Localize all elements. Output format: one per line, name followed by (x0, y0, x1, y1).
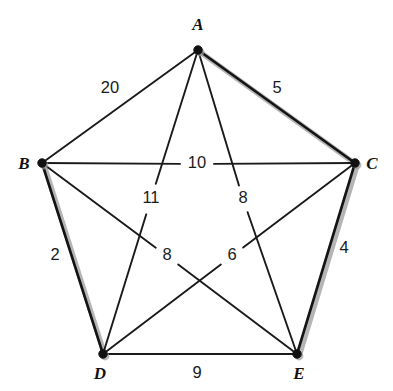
edge-a-c (198, 50, 355, 163)
edge-a-c-weight-label: 5 (272, 78, 281, 96)
edge-b-e-seg2 (178, 264, 297, 354)
edge-d-e-weight-label: 9 (192, 363, 201, 381)
vertex-d-dot (99, 350, 107, 358)
edge-a-b-weight-label: 20 (101, 78, 119, 96)
vertex-a-dot (194, 46, 202, 54)
edge-c-e-weight-label: 4 (339, 238, 348, 256)
vertex-b-dot (38, 159, 46, 167)
graph-figure: 2051024911886 ABCDE (0, 0, 393, 391)
edge-b-e-weight-label: 8 (162, 245, 171, 263)
pentagon-graph-svg: 2051024911886 ABCDE (0, 0, 393, 391)
vertex-label-layer: ABCDE (17, 15, 378, 383)
edge-line-layer (42, 50, 355, 354)
edge-b-c-seg1 (42, 163, 180, 164)
edge-a-e-weight-label: 8 (238, 188, 247, 206)
vertex-c-dot (351, 159, 359, 167)
edge-a-d-weight-label: 11 (142, 188, 159, 206)
edge-b-c-seg2 (214, 163, 355, 164)
edge-b-d-weight-label: 2 (50, 245, 59, 263)
edge-c-e (297, 163, 355, 354)
vertex-b-label: B (17, 154, 29, 173)
vertex-e-dot (293, 350, 301, 358)
vertex-c-label: C (366, 154, 378, 173)
edge-c-d-seg2 (103, 264, 221, 354)
vertex-d-label: D (93, 364, 106, 383)
edge-c-d-weight-label: 6 (227, 245, 236, 263)
edge-a-e-seg2 (248, 212, 297, 354)
vertex-e-label: E (292, 364, 304, 383)
edge-c-e-shadow (299, 165, 357, 356)
edge-b-c-weight-label: 10 (188, 153, 206, 171)
vertex-a-label: A (191, 15, 203, 34)
edge-a-b (42, 50, 198, 163)
